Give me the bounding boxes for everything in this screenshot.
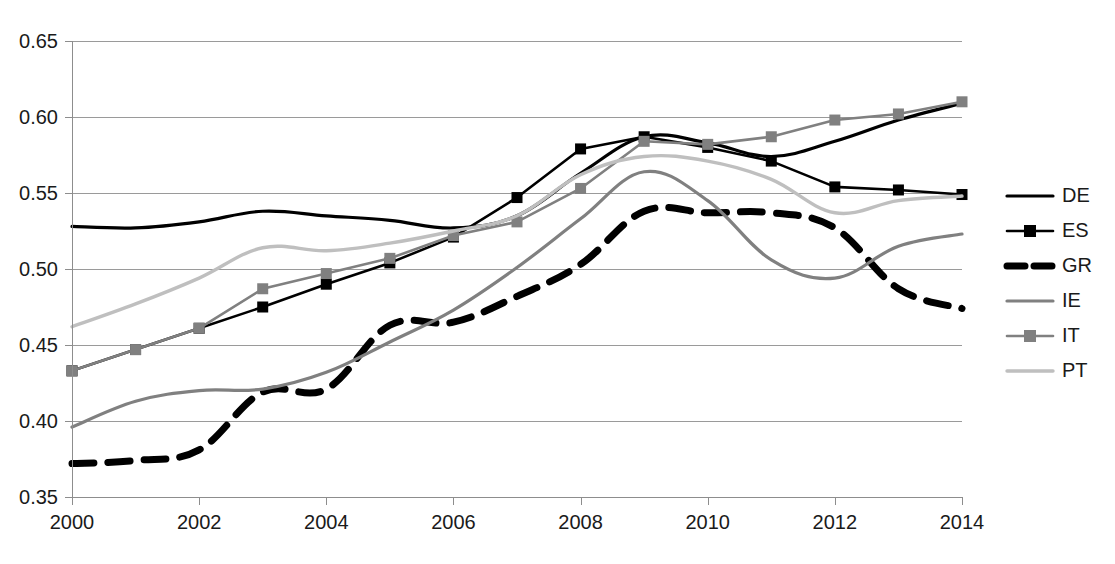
- gridlines-group: [72, 42, 962, 498]
- legend-item-pt[interactable]: PT: [1007, 359, 1088, 381]
- line-chart: 0.650.600.550.500.450.400.35 20002002200…: [0, 0, 1115, 564]
- series-line-gr: [72, 207, 962, 463]
- x-axis-tick-label: 2006: [431, 511, 476, 533]
- legend-label-de: DE: [1062, 184, 1090, 206]
- legend-item-de[interactable]: DE: [1007, 184, 1090, 206]
- y-axis-tick-label: 0.40: [19, 410, 58, 432]
- y-axis-tick-label: 0.45: [19, 334, 58, 356]
- legend-label-gr: GR: [1062, 254, 1092, 276]
- x-axis-tick-label: 2002: [177, 511, 222, 533]
- legend-label-it: IT: [1062, 324, 1080, 346]
- y-axis-tick-label: 0.65: [19, 30, 58, 52]
- data-point-marker: [829, 115, 840, 126]
- data-point-marker: [321, 268, 332, 279]
- x-axis-tick-label: 2010: [685, 511, 730, 533]
- data-point-marker: [130, 344, 141, 355]
- data-point-marker: [766, 156, 777, 167]
- legend-label-pt: PT: [1062, 359, 1088, 381]
- x-axis-tick-label: 2012: [813, 511, 858, 533]
- x-axis-tick-label: 2000: [50, 511, 95, 533]
- y-axis-ticks-group: [65, 42, 72, 498]
- series-pt: [72, 156, 962, 327]
- y-axis-tick-label: 0.60: [19, 106, 58, 128]
- data-point-marker: [829, 181, 840, 192]
- series-line-es: [72, 137, 962, 371]
- series-gr: [72, 207, 962, 463]
- data-point-marker: [575, 143, 586, 154]
- x-axis-tick-label: 2004: [304, 511, 349, 533]
- data-point-marker: [384, 253, 395, 264]
- data-point-marker: [194, 323, 205, 334]
- x-axis-tick-label: 2008: [558, 511, 603, 533]
- legend-marker-es: [1024, 225, 1036, 237]
- y-axis-tick-label: 0.35: [19, 486, 58, 508]
- legend-marker-it: [1024, 330, 1036, 342]
- x-axis-labels-group: 20002002200420062008201020122014: [50, 511, 985, 533]
- y-axis-tick-label: 0.55: [19, 182, 58, 204]
- x-axis-tick-label: 2014: [940, 511, 985, 533]
- series-line-pt: [72, 156, 962, 327]
- data-point-marker: [257, 302, 268, 313]
- data-point-marker: [257, 283, 268, 294]
- data-point-marker: [893, 108, 904, 119]
- data-point-marker: [575, 183, 586, 194]
- chart-canvas: 0.650.600.550.500.450.400.35 20002002200…: [0, 0, 1115, 564]
- legend-label-es: ES: [1062, 219, 1089, 241]
- legend-item-it[interactable]: IT: [1007, 324, 1080, 346]
- series-it: [67, 96, 968, 376]
- data-point-marker: [957, 96, 968, 107]
- legend-item-es[interactable]: ES: [1007, 219, 1089, 241]
- legend-item-ie[interactable]: IE: [1007, 289, 1081, 311]
- data-point-marker: [702, 139, 713, 150]
- series-group: [67, 96, 968, 463]
- data-point-marker: [321, 279, 332, 290]
- data-point-marker: [512, 192, 523, 203]
- y-axis-tick-label: 0.50: [19, 258, 58, 280]
- data-point-marker: [766, 131, 777, 142]
- series-es: [67, 131, 968, 376]
- y-axis-labels-group: 0.650.600.550.500.450.400.35: [19, 30, 58, 508]
- chart-legend: DEESGRIEITPT: [1007, 184, 1092, 381]
- legend-label-ie: IE: [1062, 289, 1081, 311]
- x-axis-ticks-group: [73, 497, 963, 505]
- data-point-marker: [639, 136, 650, 147]
- legend-item-gr[interactable]: GR: [1007, 254, 1092, 276]
- data-point-marker: [893, 184, 904, 195]
